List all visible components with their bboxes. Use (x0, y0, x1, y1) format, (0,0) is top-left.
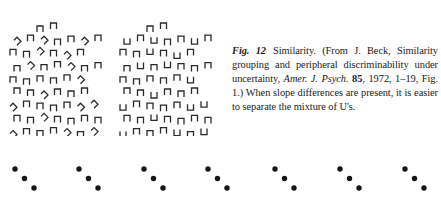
u-shape-glyph (124, 66, 130, 72)
u-shape-glyph (78, 103, 85, 111)
u-shape-glyph (147, 26, 153, 32)
dot (12, 166, 17, 171)
u-shape-glyph (151, 92, 157, 98)
u-shape-glyph (201, 129, 207, 135)
dot (76, 166, 81, 171)
u-shape-glyph (55, 89, 61, 95)
u-shape-glyph (24, 79, 30, 85)
u-shape-glyph (120, 77, 126, 83)
journal-name: Amer. J. Psych. (284, 73, 349, 84)
u-shape-glyph (151, 37, 157, 43)
u-shape-glyph (68, 91, 74, 97)
u-shape-glyph (24, 51, 30, 57)
dot (402, 166, 407, 171)
journal-volume: 85 (352, 73, 362, 84)
u-shape-glyph (41, 36, 48, 44)
u-shape-glyph (82, 37, 89, 45)
u-shape-glyph (24, 129, 30, 135)
u-shape-glyph (68, 36, 74, 42)
u-shape-glyph (147, 48, 153, 54)
u-shape-glyph (10, 77, 16, 83)
u-shape-glyph (205, 63, 211, 69)
u-shape-glyph (147, 103, 153, 109)
u-shape-glyph (37, 131, 43, 136)
u-shape-glyph (138, 117, 144, 123)
dot (356, 185, 361, 190)
u-shape-glyph (178, 36, 184, 42)
u-shape-glyph (161, 78, 167, 84)
u-shape-glyph (82, 88, 88, 94)
u-shape-glyph (151, 114, 157, 120)
u-shape-glyph (205, 35, 211, 41)
u-shape-glyph (134, 101, 140, 107)
dot (224, 185, 229, 190)
u-shape-glyph (134, 51, 140, 57)
dot (160, 185, 165, 190)
u-shape-glyph (55, 116, 61, 122)
u-shape-glyph (120, 132, 126, 136)
u-shape-glyph (41, 113, 48, 121)
u-shape-glyph (178, 91, 184, 97)
u-shape-glyph (161, 105, 167, 111)
tilted-u-field-illustration (4, 14, 104, 136)
u-shape-glyph (205, 117, 211, 123)
u-shape-glyph (188, 49, 194, 55)
u-shape-glyph (134, 129, 140, 135)
u-shape-glyph (138, 90, 144, 96)
u-shape-glyph (174, 130, 180, 136)
u-shape-glyph (165, 116, 171, 122)
figure-caption: Fig. 12Similarity. (From J. Beck, Simila… (232, 44, 438, 114)
u-shape-glyph (37, 47, 44, 55)
u-shape-glyph (161, 128, 167, 134)
dot (22, 176, 27, 181)
u-shape-glyph (41, 91, 48, 99)
dot (95, 185, 100, 190)
u-shape-glyph (95, 117, 101, 123)
u-shape-glyph (64, 51, 71, 59)
dot-triplets-row (0, 150, 441, 200)
u-shape-glyph (174, 102, 180, 108)
dot (412, 176, 417, 181)
u-shape-glyph (147, 131, 153, 136)
u-shape-glyph (51, 105, 57, 111)
u-shape-glyph (78, 132, 84, 136)
dot-triplets-illustration (0, 150, 441, 200)
dot (31, 185, 36, 190)
u-shape-glyph (161, 50, 167, 56)
u-shape-glyph (55, 39, 61, 45)
u-shape-glyph (28, 62, 35, 70)
u-shape-glyph (14, 66, 20, 72)
u-shape-glyph (28, 117, 34, 123)
u-shape-glyph (120, 49, 126, 55)
u-shape-glyph (188, 132, 194, 136)
u-shape-glyph (51, 23, 57, 29)
u-shape-glyph (178, 118, 184, 124)
dot (282, 176, 287, 181)
u-shape-glyph (161, 23, 167, 29)
u-shape-glyph (124, 115, 130, 121)
u-shape-glyph (14, 88, 20, 94)
u-shape-glyph (151, 65, 157, 71)
figure-left-panel (4, 14, 104, 136)
u-shape-glyph (51, 50, 57, 56)
u-shape-glyph (178, 64, 184, 70)
u-shape-glyph (51, 128, 57, 134)
u-shape-glyph (188, 104, 194, 110)
inverted-u-field-illustration (114, 14, 214, 136)
dot (347, 176, 352, 181)
dot (86, 176, 91, 181)
dot (141, 166, 146, 171)
u-shape-glyph (55, 62, 61, 68)
u-shape-glyph (10, 49, 16, 55)
u-shape-glyph (78, 76, 85, 84)
u-shape-glyph (134, 79, 140, 85)
u-shape-glyph (78, 49, 84, 55)
u-shape-glyph (68, 118, 74, 124)
figure-label: Fig. 12 (232, 45, 266, 56)
u-shape-glyph (201, 101, 207, 107)
u-shape-glyph (64, 129, 71, 136)
u-shape-glyph (192, 115, 198, 121)
u-shape-glyph (120, 104, 126, 110)
u-shape-glyph (10, 131, 17, 136)
u-shape-glyph (188, 77, 194, 83)
